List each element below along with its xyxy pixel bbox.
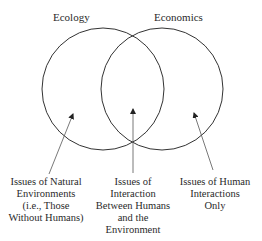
region-label-line: Interactions: [180, 188, 251, 200]
set-label-ecology: Ecology: [53, 11, 90, 23]
region-label-intersection: Issues of Interaction Between Humans and…: [96, 176, 170, 236]
region-label-economics-only: Issues of Human Interactions Only: [180, 176, 251, 212]
region-label-line: Without Humans): [8, 212, 83, 224]
region-label-line: Environment: [96, 224, 170, 236]
region-label-line: Between Humans: [96, 200, 170, 212]
region-label-line: Issues of Natural: [8, 176, 83, 188]
set-label-economics: Economics: [154, 11, 203, 23]
region-label-line: Interaction: [96, 188, 170, 200]
region-label-line: Issues of: [96, 176, 170, 188]
ecology-circle: [42, 28, 164, 150]
region-label-line: Only: [180, 200, 251, 212]
arrow-economics-only: [194, 113, 213, 170]
economics-circle: [101, 28, 223, 150]
region-label-line: Issues of Human: [180, 176, 251, 188]
region-label-line: (i.e., Those: [8, 200, 83, 212]
region-label-line: and the: [96, 212, 170, 224]
region-label-line: Environments: [8, 188, 83, 200]
region-label-ecology-only: Issues of Natural Environments (i.e., Th…: [8, 176, 83, 224]
